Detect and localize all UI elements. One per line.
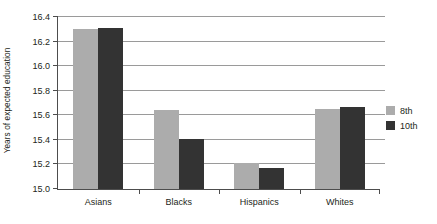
y-axis-tick-label: 15.2 [32, 159, 50, 169]
plot-area: 15.015.215.415.615.816.016.216.4 AsiansB… [57, 17, 380, 190]
y-axis-tick-mark-right [380, 163, 385, 164]
bar-whites-10th [340, 107, 365, 189]
bar-hispanics-10th [259, 168, 284, 189]
bar-chart-figure: Years of expected education 15.015.215.4… [0, 0, 437, 224]
bar-blacks-10th [179, 139, 204, 189]
legend-swatch-8th [386, 106, 395, 115]
bar-group [219, 17, 300, 189]
y-axis-tick-mark-right [380, 139, 385, 140]
legend: 8th10th [386, 103, 418, 133]
bar-group [139, 17, 220, 189]
x-axis-tick-mark [139, 189, 140, 194]
x-axis-tick-label: Whites [326, 197, 354, 207]
x-axis-tick-label: Hispanics [240, 197, 279, 207]
legend-label: 8th [400, 106, 413, 116]
y-axis-tick-mark-right [380, 65, 385, 66]
bar-group [300, 17, 381, 189]
y-axis-tick-mark-right [380, 114, 385, 115]
bar-asians-10th [98, 28, 123, 189]
bar-group [58, 17, 139, 189]
bar-hispanics-8th [234, 163, 259, 189]
x-axis-tick-mark [379, 189, 380, 194]
bar-asians-8th [73, 29, 98, 189]
bar-blacks-8th [154, 110, 179, 189]
y-axis-title-text: Years of expected education [4, 47, 13, 153]
y-axis-tick-label: 15.8 [32, 86, 50, 96]
y-axis-tick-label: 16.4 [32, 12, 50, 22]
bar-whites-8th [315, 109, 340, 189]
legend-swatch-10th [386, 121, 395, 130]
y-axis-tick-mark-right [380, 90, 385, 91]
y-axis-title: Years of expected education [0, 0, 16, 200]
x-axis-tick-label: Blacks [165, 197, 192, 207]
y-axis-tick-mark-right [380, 41, 385, 42]
legend-item-10th: 10th [386, 118, 418, 133]
x-axis-tick-mark [300, 189, 301, 194]
y-axis-tick-label: 15.0 [32, 184, 50, 194]
y-axis-tick-label: 15.6 [32, 110, 50, 120]
y-axis-tick-mark-right [380, 16, 385, 17]
x-axis-tick-label: Asians [85, 197, 112, 207]
legend-label: 10th [400, 121, 418, 131]
y-axis-tick-label: 15.4 [32, 135, 50, 145]
y-axis-tick-label: 16.0 [32, 61, 50, 71]
y-axis-tick-label: 16.2 [32, 37, 50, 47]
x-axis-tick-mark [219, 189, 220, 194]
legend-item-8th: 8th [386, 103, 418, 118]
